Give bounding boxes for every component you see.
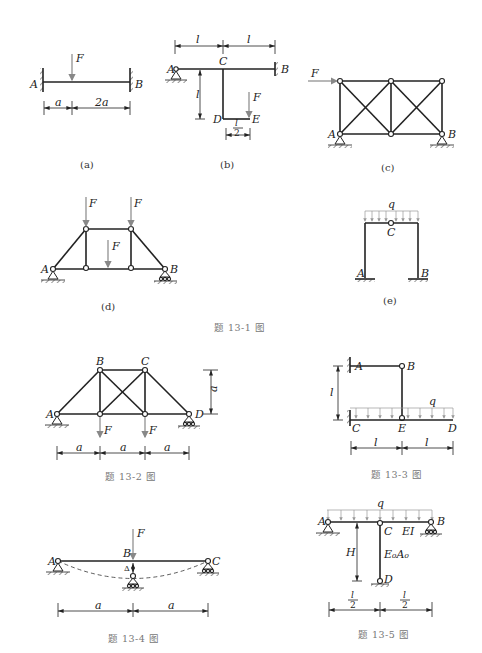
dim-span-2: l xyxy=(425,436,429,449)
roller-support-d xyxy=(184,416,194,422)
label-A: A xyxy=(327,128,336,141)
dim-l-half-num: l xyxy=(235,118,238,128)
dim-span-2: a xyxy=(168,599,175,612)
figure-13-5: q A B C EI E₀A₀ D H l 2 l 2 xyxy=(316,497,445,640)
label-A: A xyxy=(47,555,56,568)
figure-13-1-a: F A B a 2a (a) xyxy=(29,52,143,170)
label-delta: Δ xyxy=(124,564,130,573)
label-C: C xyxy=(141,355,150,368)
pin-support-b xyxy=(437,136,447,144)
sublabel-e: (e) xyxy=(383,295,397,306)
label-E: E xyxy=(397,422,406,435)
label-q: q xyxy=(377,497,384,510)
dim-span-2: a xyxy=(120,441,127,454)
figure-13-4: Δ F B A C a a 题 13-4 图 xyxy=(46,527,221,644)
pin-support-a xyxy=(335,136,345,144)
figure-13-1-d: F F F A B (d) xyxy=(40,197,178,312)
caption-13-2: 题 13-2 图 xyxy=(105,471,156,482)
dim-height-a: a xyxy=(207,385,220,392)
figure-13-1-e: q C A B (e) xyxy=(355,198,429,306)
dim-l-top-right: l xyxy=(247,33,251,46)
label-B: B xyxy=(95,355,104,368)
dim-a: a xyxy=(55,96,62,109)
label-A: A xyxy=(45,408,54,421)
label-B: B xyxy=(447,128,456,141)
label-D: D xyxy=(194,408,204,421)
label-B: B xyxy=(280,63,289,76)
label-F1: F xyxy=(103,424,112,437)
roller-support-b xyxy=(128,578,138,584)
dim-span-2-num: l xyxy=(403,590,406,600)
dim-span-1: a xyxy=(76,441,83,454)
label-F: F xyxy=(252,91,261,104)
caption-13-1: 题 13-1 图 xyxy=(214,322,265,333)
label-C: C xyxy=(387,226,396,239)
label-D: D xyxy=(383,573,393,586)
label-B: B xyxy=(134,78,143,91)
distributed-load xyxy=(365,211,418,221)
label-A: A xyxy=(356,267,365,280)
sublabel-a: (a) xyxy=(80,159,94,170)
pin-support-a xyxy=(48,271,58,279)
label-D: D xyxy=(212,113,222,126)
dim-span-3: a xyxy=(164,441,171,454)
label-D: D xyxy=(447,422,457,435)
label-C: C xyxy=(219,55,228,68)
dim-span-1: a xyxy=(95,599,102,612)
label-A: A xyxy=(317,515,326,528)
label-A: A xyxy=(166,63,175,76)
roller-support-b xyxy=(426,524,436,530)
label-A: A xyxy=(29,78,38,91)
dim-2a: 2a xyxy=(94,96,109,109)
sublabel-b: (b) xyxy=(220,159,234,170)
caption-13-3: 题 13-3 图 xyxy=(371,469,422,480)
label-C: C xyxy=(212,555,221,568)
dim-span-2-den: 2 xyxy=(402,600,408,610)
label-q: q xyxy=(388,198,395,211)
label-B: B xyxy=(406,360,415,373)
label-B: B xyxy=(436,515,445,528)
figure-13-3: q A B C E D l l l 题 13-3 图 xyxy=(330,357,457,480)
roller-support-b xyxy=(160,271,170,277)
distributed-load xyxy=(328,510,432,520)
sublabel-d: (d) xyxy=(101,301,115,312)
caption-13-4: 题 13-4 图 xyxy=(108,633,159,644)
label-EI: EI xyxy=(401,525,415,538)
label-B: B xyxy=(122,547,131,560)
dim-H: H xyxy=(345,546,356,559)
label-A: A xyxy=(40,263,49,276)
label-B: B xyxy=(169,263,178,276)
figure-13-2: F F B C A D a a a a 题 13-2 图 xyxy=(45,355,220,482)
figure-13-1-b: l l A B C D E F l l 2 (b) xyxy=(165,33,289,170)
caption-13-5: 题 13-5 图 xyxy=(358,629,409,640)
label-E: E xyxy=(251,113,260,126)
label-F: F xyxy=(75,52,84,65)
dim-span-1-num: l xyxy=(351,590,354,600)
label-F2: F xyxy=(148,424,157,437)
label-F: F xyxy=(136,527,145,540)
figure-13-1-c: F A B (c) xyxy=(308,67,456,173)
sublabel-c: (c) xyxy=(381,162,395,173)
dim-vertical-l: l xyxy=(330,386,334,399)
dim-span-1: l xyxy=(374,436,378,449)
label-F1: F xyxy=(88,197,97,210)
label-E0A0: E₀A₀ xyxy=(383,548,409,561)
label-A: A xyxy=(354,360,363,373)
dim-l-top-left: l xyxy=(196,33,200,46)
dim-l-half-den: 2 xyxy=(234,128,240,138)
dim-l-vertical: l xyxy=(196,88,200,101)
label-q: q xyxy=(429,395,436,408)
dim-span-1-den: 2 xyxy=(350,600,356,610)
label-F: F xyxy=(310,67,319,80)
label-C: C xyxy=(384,525,393,538)
label-C: C xyxy=(352,422,361,435)
label-F3: F xyxy=(111,240,120,253)
label-B: B xyxy=(420,267,429,280)
label-F2: F xyxy=(133,197,142,210)
